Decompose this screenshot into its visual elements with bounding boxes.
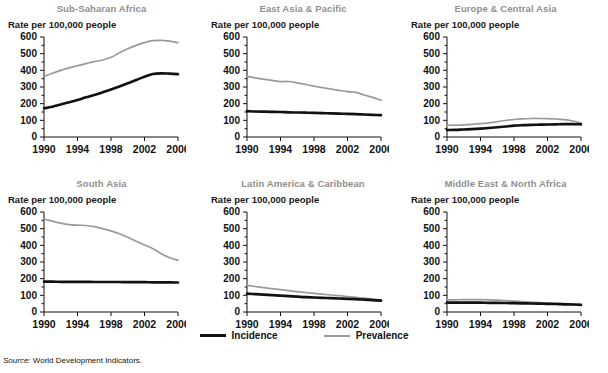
- x-tick-label: 1994: [66, 143, 90, 155]
- y-tick-label: 500: [223, 223, 240, 234]
- series-line-prevalence: [247, 76, 381, 100]
- y-tick-label: 500: [20, 48, 37, 59]
- y-tick-label: 400: [20, 240, 37, 251]
- y-tick-label: 600: [423, 31, 440, 42]
- tuberculosis-rate-small-multiples-figure: Sub-Saharan AfricaRate per 100,000 peopl…: [0, 0, 608, 373]
- x-tick-label: 2002: [536, 143, 560, 155]
- y-tick-label: 400: [423, 65, 440, 76]
- plot-area: 010020030040050060019901994199820022006: [203, 31, 389, 159]
- legend-item-incidence: Incidence: [200, 330, 278, 341]
- y-axis-label: Rate per 100,000 people: [211, 194, 319, 205]
- x-tick-label: 1998: [502, 318, 526, 330]
- source-text: World Development Indicators.: [33, 356, 142, 365]
- x-tick-label: 1994: [469, 318, 493, 330]
- series-line-incidence: [247, 111, 381, 115]
- x-tick-label: 1990: [435, 318, 459, 330]
- x-tick-label: 2002: [133, 318, 157, 330]
- y-tick-label: 600: [223, 31, 240, 42]
- plot-area: 010020030040050060019901994199820022006: [0, 206, 186, 334]
- y-tick-label: 500: [223, 48, 240, 59]
- panel-title: East Asia & Pacific: [203, 3, 403, 14]
- series-line-incidence: [44, 282, 178, 283]
- y-tick-label: 300: [423, 81, 440, 92]
- y-tick-label: 300: [423, 256, 440, 267]
- x-tick-label: 1990: [235, 143, 259, 155]
- x-tick-label: 1994: [66, 318, 90, 330]
- x-tick-label: 1998: [502, 143, 526, 155]
- panel-title: Sub-Saharan Africa: [0, 3, 203, 14]
- y-tick-label: 600: [423, 206, 440, 217]
- y-tick-label: 100: [20, 290, 37, 301]
- y-tick-label: 0: [434, 131, 440, 142]
- x-tick-label: 2006: [166, 143, 186, 155]
- y-tick-label: 100: [423, 115, 440, 126]
- y-tick-label: 400: [223, 240, 240, 251]
- x-tick-label: 1990: [435, 143, 459, 155]
- y-tick-label: 0: [31, 306, 37, 317]
- legend-label-prevalence: Prevalence: [356, 330, 409, 341]
- x-tick-label: 1994: [269, 143, 293, 155]
- y-tick-label: 400: [423, 240, 440, 251]
- x-tick-label: 1998: [99, 143, 123, 155]
- series-line-prevalence: [44, 219, 178, 260]
- legend-item-prevalence: Prevalence: [324, 330, 409, 341]
- y-tick-label: 100: [223, 115, 240, 126]
- panel-grid: Sub-Saharan AfricaRate per 100,000 peopl…: [0, 0, 608, 340]
- panel-title: Middle East & North Africa: [403, 178, 608, 189]
- legend-label-incidence: Incidence: [232, 330, 278, 341]
- y-tick-label: 400: [223, 65, 240, 76]
- x-tick-label: 2006: [569, 318, 589, 330]
- plot-area: 010020030040050060019901994199820022006: [203, 206, 389, 334]
- y-tick-label: 200: [20, 98, 37, 109]
- source-prefix: Source:: [3, 356, 31, 365]
- x-tick-label: 2006: [369, 143, 389, 155]
- legend-line-incidence-icon: [200, 334, 226, 337]
- x-tick-label: 1998: [99, 318, 123, 330]
- y-axis-label: Rate per 100,000 people: [211, 19, 319, 30]
- chart-panel: Middle East & North AfricaRate per 100,0…: [403, 175, 608, 340]
- x-tick-label: 2006: [369, 318, 389, 330]
- y-tick-label: 100: [223, 290, 240, 301]
- y-tick-label: 0: [434, 306, 440, 317]
- y-axis-label: Rate per 100,000 people: [411, 19, 519, 30]
- y-tick-label: 0: [234, 306, 240, 317]
- y-tick-label: 500: [423, 223, 440, 234]
- y-tick-label: 100: [423, 290, 440, 301]
- source-note: Source: World Development Indicators.: [3, 356, 142, 365]
- series-line-prevalence: [44, 40, 178, 76]
- y-tick-label: 500: [20, 223, 37, 234]
- y-tick-label: 400: [20, 65, 37, 76]
- x-tick-label: 1990: [32, 143, 56, 155]
- panel-title: South Asia: [0, 178, 203, 189]
- y-axis-label: Rate per 100,000 people: [8, 19, 116, 30]
- y-tick-label: 300: [223, 81, 240, 92]
- legend-line-prevalence-icon: [324, 335, 350, 337]
- x-tick-label: 1998: [302, 318, 326, 330]
- y-axis-label: Rate per 100,000 people: [8, 194, 116, 205]
- plot-area: 010020030040050060019901994199820022006: [0, 31, 186, 159]
- chart-panel: Sub-Saharan AfricaRate per 100,000 peopl…: [0, 0, 203, 175]
- y-tick-label: 200: [423, 98, 440, 109]
- plot-area: 010020030040050060019901994199820022006: [403, 31, 589, 159]
- y-axis-label: Rate per 100,000 people: [411, 194, 519, 205]
- y-tick-label: 200: [20, 273, 37, 284]
- x-tick-label: 1990: [235, 318, 259, 330]
- x-tick-label: 1994: [469, 143, 493, 155]
- x-tick-label: 1998: [302, 143, 326, 155]
- y-tick-label: 600: [223, 206, 240, 217]
- y-tick-label: 200: [423, 273, 440, 284]
- plot-area: 010020030040050060019901994199820022006: [403, 206, 589, 334]
- panel-title: Latin America & Caribbean: [203, 178, 403, 189]
- y-tick-label: 0: [234, 131, 240, 142]
- y-tick-label: 300: [20, 81, 37, 92]
- chart-panel: South AsiaRate per 100,000 people0100200…: [0, 175, 203, 340]
- series-line-incidence: [44, 73, 178, 108]
- chart-panel: East Asia & PacificRate per 100,000 peop…: [203, 0, 403, 175]
- y-tick-label: 0: [31, 131, 37, 142]
- x-tick-label: 2002: [133, 143, 157, 155]
- y-tick-label: 300: [223, 256, 240, 267]
- x-tick-label: 2002: [536, 318, 560, 330]
- y-tick-label: 200: [223, 98, 240, 109]
- y-tick-label: 600: [20, 206, 37, 217]
- chart-legend: Incidence Prevalence: [0, 330, 608, 341]
